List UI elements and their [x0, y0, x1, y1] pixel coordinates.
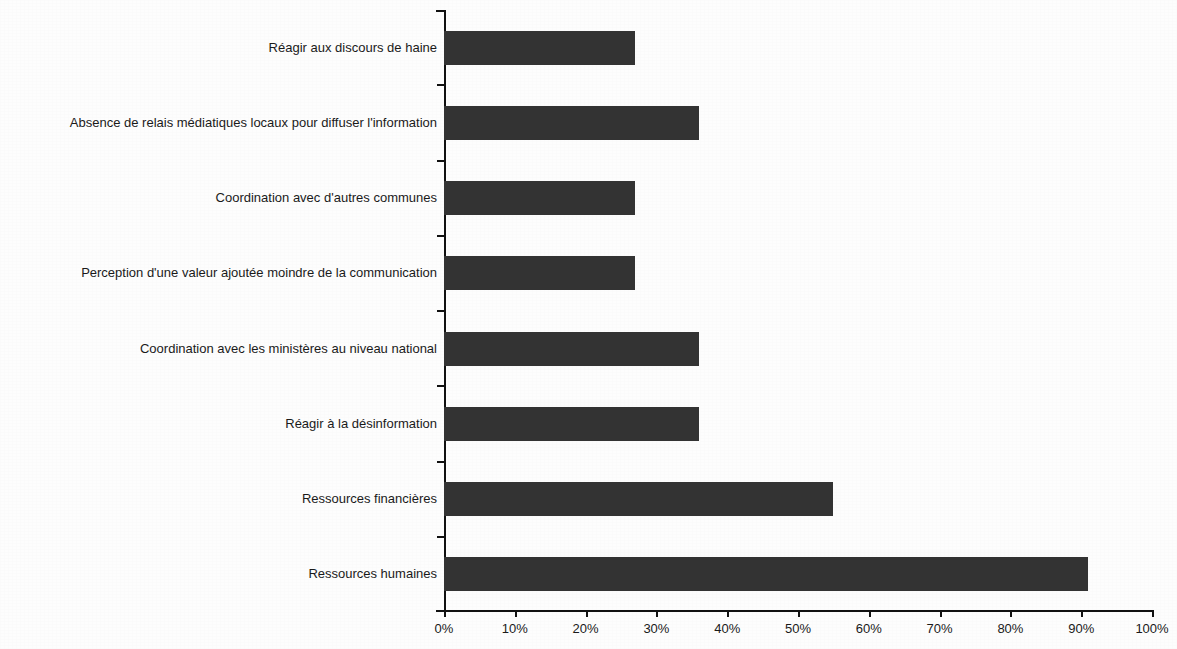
x-axis-tick-label: 0% — [435, 621, 454, 637]
x-axis-tick — [798, 610, 800, 617]
x-axis-tick — [940, 610, 942, 617]
bar — [444, 332, 699, 366]
x-axis-tick — [1081, 610, 1083, 617]
x-axis-tick — [656, 610, 658, 617]
category-label: Perception d'une valeur ajoutée moindre … — [0, 264, 437, 281]
x-axis-tick-label: 20% — [573, 621, 599, 637]
bar — [444, 181, 635, 215]
category-label: Absence de relais médiatiques locaux pou… — [0, 114, 437, 131]
x-axis-tick-label: 60% — [856, 621, 882, 637]
x-axis-tick — [515, 610, 517, 617]
y-axis-tick — [437, 536, 444, 538]
y-axis-tick — [437, 385, 444, 387]
y-axis-top-cap — [436, 10, 444, 12]
plot-area — [444, 10, 1152, 612]
x-axis-tick-label: 90% — [1068, 621, 1094, 637]
x-axis-tick — [869, 610, 871, 617]
category-label: Coordination avec d'autres communes — [0, 189, 437, 206]
y-axis-bottom-cap — [436, 610, 444, 612]
bar — [444, 256, 635, 290]
bar — [444, 407, 699, 441]
y-axis-tick — [437, 310, 444, 312]
x-axis-tick-label: 80% — [997, 621, 1023, 637]
y-axis-tick — [437, 461, 444, 463]
bar — [444, 482, 833, 516]
bar — [444, 31, 635, 65]
x-axis-tick-label: 10% — [502, 621, 528, 637]
bar — [444, 557, 1088, 591]
x-axis-tick-label: 50% — [785, 621, 811, 637]
category-label: Réagir aux discours de haine — [0, 39, 437, 56]
category-label: Réagir à la désinformation — [0, 415, 437, 432]
x-axis-tick — [1010, 610, 1012, 617]
x-axis-tick-label: 40% — [714, 621, 740, 637]
x-axis-tick-label: 30% — [643, 621, 669, 637]
y-axis-tick — [437, 84, 444, 86]
x-axis-tick — [444, 610, 446, 617]
x-axis-tick — [586, 610, 588, 617]
x-axis-tick-label: 100% — [1135, 621, 1168, 637]
x-axis-tick-label: 70% — [927, 621, 953, 637]
y-axis-tick — [437, 235, 444, 237]
category-label: Coordination avec les ministères au nive… — [0, 340, 437, 357]
category-label: Ressources humaines — [0, 565, 437, 582]
bar — [444, 106, 699, 140]
x-axis-tick — [1152, 610, 1154, 617]
y-axis-tick — [437, 160, 444, 162]
x-axis-tick — [727, 610, 729, 617]
category-label: Ressources financières — [0, 490, 437, 507]
bar-chart-figure: Réagir aux discours de haineAbsence de r… — [0, 0, 1177, 649]
